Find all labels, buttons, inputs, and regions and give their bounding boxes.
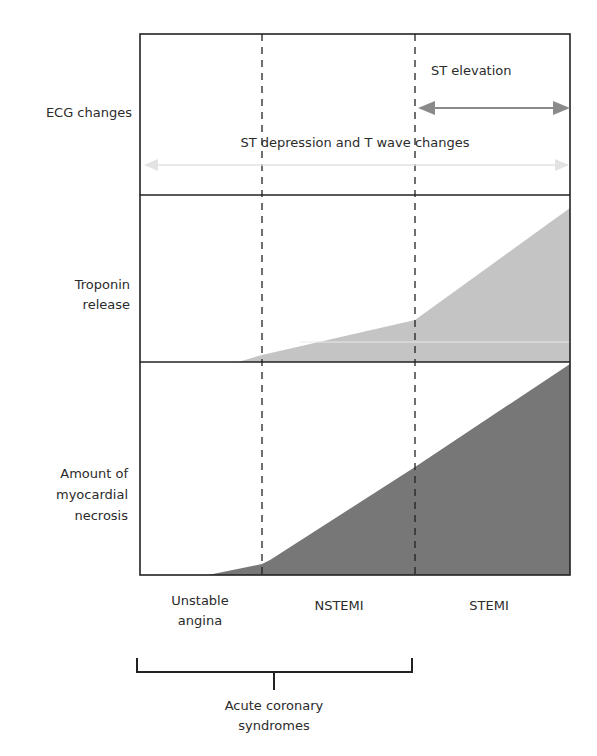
troponin-release-area bbox=[238, 208, 570, 362]
st-elevation-arrow-icon bbox=[418, 101, 570, 115]
row-label-necrosis-1: Amount of bbox=[10, 465, 128, 482]
acs-label-2: syndromes bbox=[194, 717, 354, 734]
row-label-troponin-2: release bbox=[20, 296, 130, 313]
row-label-necrosis-3: necrosis bbox=[10, 507, 128, 524]
st-depression-arrow-icon bbox=[144, 159, 569, 171]
acs-bracket bbox=[137, 658, 412, 690]
st-elevation-label: ST elevation bbox=[431, 62, 512, 79]
column-label-nstemi: NSTEMI bbox=[289, 597, 389, 614]
st-depression-label: ST depression and T wave changes bbox=[175, 134, 535, 151]
column-label-unstable-1: Unstable bbox=[150, 592, 250, 609]
column-label-unstable-2: angina bbox=[150, 612, 250, 629]
acs-label-1: Acute coronary bbox=[194, 697, 354, 714]
row-label-ecg: ECG changes bbox=[20, 104, 132, 121]
row-label-necrosis-2: myocardial bbox=[10, 486, 128, 503]
column-label-stemi: STEMI bbox=[439, 597, 539, 614]
row-label-troponin-1: Troponin bbox=[20, 276, 130, 293]
